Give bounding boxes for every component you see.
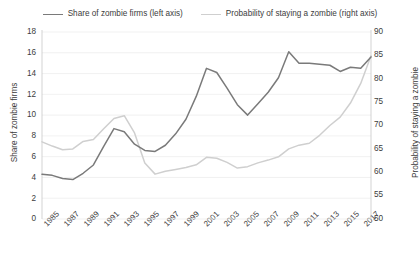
- plot-area: [0, 0, 420, 260]
- chart-figure: Share of zombie firms (left axis) Probab…: [0, 0, 420, 260]
- series-line-share: [42, 52, 371, 180]
- gridlines: [42, 32, 371, 219]
